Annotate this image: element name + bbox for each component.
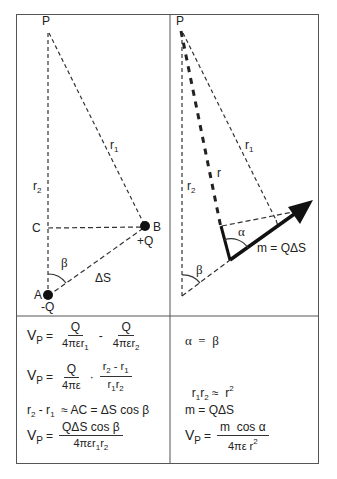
label-C: C	[32, 221, 41, 235]
minus: -	[99, 329, 103, 343]
dot: ·	[90, 370, 94, 384]
charge-A-dot	[43, 290, 53, 300]
fraction: QΔS cos β4πεr1r2	[59, 420, 123, 452]
approx-r: ≈ r	[209, 386, 230, 400]
charge-B-dot	[140, 221, 150, 231]
equation-moment: m = QΔS	[185, 403, 234, 417]
label-B: B	[153, 220, 161, 234]
sub: 2	[104, 443, 108, 452]
v: V	[185, 427, 194, 443]
equals: =	[204, 429, 211, 443]
equation-vp-dipole-left: VP = QΔS cos β4πεr1r2	[27, 420, 126, 452]
numerator: Q	[64, 362, 79, 378]
den-sub: 2	[135, 343, 139, 352]
sup: 2	[253, 437, 257, 446]
fraction-2: Q4πεr2	[110, 320, 143, 352]
denominator: 4πε r2	[225, 436, 261, 452]
right-panel-geometry	[181, 31, 313, 296]
label-minus-Q: -Q	[41, 300, 54, 314]
frame	[17, 15, 319, 464]
equation-r-approx: r1r2 ≈ r2	[185, 370, 234, 402]
label-beta-right: β	[196, 262, 203, 278]
equation-vp-combined: VP = Q4πε · r2 - r1 r1r2	[27, 360, 135, 393]
fraction-1: Q4πεr1	[59, 320, 92, 352]
equation-path-difference: r2 - r1 ≈ AC = ΔS cos β	[27, 403, 149, 419]
p-sub: P	[36, 334, 43, 345]
r-line	[181, 31, 221, 228]
vp-symbol: VP	[185, 427, 201, 446]
label-delta-S: ΔS	[95, 271, 111, 285]
v: V	[27, 327, 36, 343]
label-beta-left: β	[61, 255, 68, 271]
equals: =	[46, 329, 53, 343]
r1-sub-right: 1	[249, 145, 253, 154]
p-sub: P	[36, 434, 43, 445]
vp-symbol: VP	[27, 367, 43, 386]
numerator: Q	[68, 320, 83, 336]
fraction: m cos α4πε r2	[217, 420, 269, 452]
left-panel-geometry	[43, 33, 150, 300]
numerator: r2 - r1	[100, 360, 132, 377]
denominator: 4πε	[59, 378, 84, 391]
sub: 1	[124, 366, 128, 375]
den-sub: 1	[84, 343, 88, 352]
equals: =	[46, 370, 53, 384]
label-r1-right: r1	[245, 138, 253, 154]
label-r2-left: r2	[33, 179, 41, 195]
den-text: 4πε r	[228, 440, 253, 452]
equation-vp-difference: VP = Q4πεr1 - Q4πεr2	[27, 320, 146, 352]
label-r: r	[217, 166, 221, 180]
sup: 2	[229, 384, 233, 393]
arrow-head-icon	[288, 200, 313, 224]
label-alpha: α	[238, 224, 245, 240]
r1-sub: 1	[114, 145, 118, 154]
r2-sub-right: 2	[191, 186, 195, 195]
rest: ≈ AC = ΔS cos β	[55, 403, 150, 417]
equation-alpha-beta: α = β	[185, 333, 219, 349]
minus-r: - r	[111, 360, 124, 372]
v: V	[27, 427, 36, 443]
den-text: 4πεr	[62, 337, 84, 349]
label-P-left: P	[42, 14, 50, 28]
beta-arc	[48, 274, 66, 283]
p-sub: P	[36, 375, 43, 386]
denominator: 4πεr1	[59, 336, 92, 352]
numerator: Q	[118, 320, 133, 336]
label-P-right: P	[176, 14, 184, 28]
vp-symbol: VP	[27, 427, 43, 446]
label-plus-Q: +Q	[137, 234, 153, 248]
equation-vp-dipole-right: VP = m cos α4πε r2	[185, 420, 272, 452]
v: V	[27, 367, 36, 383]
fraction-1: Q4πε	[59, 362, 84, 391]
label-r2-right: r2	[187, 179, 195, 195]
equals: =	[46, 429, 53, 443]
den-text: 4πεr	[113, 337, 135, 349]
numerator: QΔS cos β	[59, 420, 123, 436]
label-moment: m = QΔS	[257, 241, 306, 255]
denominator: r1r2	[105, 377, 127, 393]
minus-r: - r	[35, 403, 50, 417]
numerator: m cos α	[217, 420, 269, 436]
denominator: 4πεr2	[110, 336, 143, 352]
label-r1-left: r1	[110, 138, 118, 154]
r2-sub: 2	[37, 186, 41, 195]
fraction-2: r2 - r1 r1r2	[100, 360, 132, 393]
denominator: 4πεr1r2	[70, 436, 111, 452]
sub: 2	[119, 384, 123, 393]
p-sub: P	[194, 434, 201, 445]
den-text: 4πεr	[73, 437, 95, 449]
dipole-perpendicular	[221, 226, 230, 260]
vp-symbol: VP	[27, 327, 43, 346]
